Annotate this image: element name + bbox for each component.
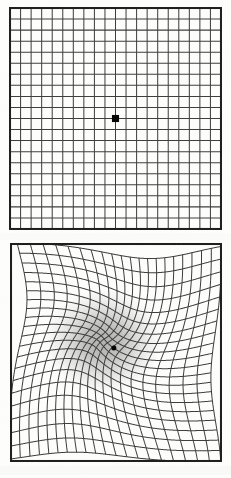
fixation-point-square (112, 115, 119, 122)
panel-normal-grid (8, 6, 223, 231)
panel-distorted-grid (9, 242, 223, 463)
distorted-amsler-grid-svg (9, 242, 223, 463)
normal-amsler-grid-svg (8, 6, 223, 231)
figure-bottom-margin (0, 464, 231, 476)
fixation-point-dot (111, 346, 116, 351)
amsler-figure-root (0, 0, 231, 478)
